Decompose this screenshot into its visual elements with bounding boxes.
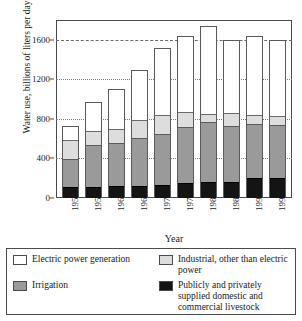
legend-swatch-electric-icon xyxy=(13,255,27,265)
x-axis-tick-1990: 1990 xyxy=(246,200,263,232)
bar-segment-industrial-1955 xyxy=(86,131,101,145)
bar-segment-irrigation-1985 xyxy=(224,126,239,182)
x-axis-tick-label: 1960 xyxy=(117,193,126,211)
x-axis-title: Year xyxy=(56,233,292,244)
bar-segment-irrigation-1955 xyxy=(86,145,101,187)
bar-segment-electric-1980 xyxy=(201,27,216,115)
x-axis-tick-label: 1980 xyxy=(209,193,218,211)
x-axis-tick-label: 1975 xyxy=(186,193,195,211)
bar-1955 xyxy=(85,102,102,198)
legend-label: Irrigation xyxy=(32,280,68,291)
bar-1960 xyxy=(108,89,125,198)
bar-1970 xyxy=(154,48,171,198)
bar-segment-electric-1965 xyxy=(132,71,147,119)
bar-segment-electric-1950 xyxy=(63,127,78,141)
bar-segment-electric-1995 xyxy=(270,41,285,116)
y-axis-tick-1600: 1600 xyxy=(32,35,50,44)
x-axis-tick-1985: 1985 xyxy=(223,200,240,232)
legend-label: Industrial, other than electric power xyxy=(178,254,289,276)
x-axis-tick-1965: 1965 xyxy=(131,200,148,232)
legend-item-industrial-other-than-electric-power: Industrial, other than electric power xyxy=(159,254,289,276)
legend-item-irrigation: Irrigation xyxy=(13,280,159,313)
x-axis-tick-1970: 1970 xyxy=(154,200,171,232)
legend-swatch-domestic-icon xyxy=(159,281,173,291)
bar-segment-irrigation-1950 xyxy=(63,159,78,187)
x-axis-tick-label: 1995 xyxy=(278,193,287,211)
y-axis-tick-mark xyxy=(50,79,54,80)
bar-1985 xyxy=(223,40,240,198)
x-axis-tick-label: 1955 xyxy=(94,193,103,211)
x-axis-tick-labels: 1950195519601965197019751980198519901995 xyxy=(56,200,292,232)
x-axis-tick-1955: 1955 xyxy=(85,200,102,232)
legend-swatch-industrial-icon xyxy=(159,255,173,265)
bar-segment-industrial-1975 xyxy=(178,112,193,128)
y-axis-tick-mark xyxy=(50,118,54,119)
bar-segment-irrigation-1980 xyxy=(201,122,216,182)
bar-segment-electric-1985 xyxy=(224,41,239,113)
legend-swatch-irrigation-icon xyxy=(13,281,27,291)
bar-segment-irrigation-1960 xyxy=(109,143,124,186)
x-axis-tick-label: 1965 xyxy=(140,193,149,211)
x-axis-tick-label: 1970 xyxy=(163,193,172,211)
y-axis-tick-800: 800 xyxy=(37,114,51,123)
x-axis-tick-1980: 1980 xyxy=(200,200,217,232)
bar-segment-electric-1955 xyxy=(86,103,101,131)
bar-segment-industrial-1990 xyxy=(247,115,262,124)
legend-label: Publicly and privately supplied domestic… xyxy=(178,280,289,313)
water-use-stacked-bar-chart: Water use, billions of liters per day 04… xyxy=(0,0,302,321)
bar-segment-industrial-1950 xyxy=(63,140,78,159)
x-axis-tick-1975: 1975 xyxy=(177,200,194,232)
x-axis-tick-1960: 1960 xyxy=(108,200,125,232)
bar-segment-industrial-1995 xyxy=(270,116,285,125)
legend-row: Irrigation Publicly and privately suppli… xyxy=(13,280,289,313)
bar-segment-industrial-1980 xyxy=(201,114,216,122)
plot-area xyxy=(56,20,292,198)
bar-1965 xyxy=(131,70,148,198)
legend-item-electric-power-generation: Electric power generation xyxy=(13,254,159,276)
bar-1990 xyxy=(246,36,263,198)
bar-segment-irrigation-1975 xyxy=(178,127,193,183)
bar-1975 xyxy=(177,36,194,198)
x-axis-tick-1995: 1995 xyxy=(269,200,286,232)
x-axis-tick-label: 1990 xyxy=(255,193,264,211)
bar-segment-industrial-1960 xyxy=(109,129,124,143)
legend-row: Electric power generation Industrial, ot… xyxy=(13,254,289,276)
bar-segment-irrigation-1970 xyxy=(155,134,170,185)
x-axis-tick-label: 1950 xyxy=(71,193,80,211)
bar-group xyxy=(56,20,292,198)
y-axis-tick-mark xyxy=(50,158,54,159)
y-axis-tick-400: 400 xyxy=(37,154,51,163)
bar-segment-irrigation-1965 xyxy=(132,138,147,186)
bar-segment-electric-1990 xyxy=(247,37,262,115)
legend-label: Electric power generation xyxy=(32,254,130,265)
chart-legend: Electric power generation Industrial, ot… xyxy=(6,248,296,315)
y-axis-tick-labels: 040080012001600 xyxy=(20,20,54,198)
legend-item-domestic-and-commercial-livestock: Publicly and privately supplied domestic… xyxy=(159,280,289,313)
x-axis-tick-label: 1985 xyxy=(232,193,241,211)
bar-segment-electric-1960 xyxy=(109,90,124,129)
bar-1980 xyxy=(200,26,217,198)
bar-1995 xyxy=(269,40,286,198)
bar-segment-industrial-1970 xyxy=(155,115,170,134)
bar-segment-electric-1975 xyxy=(178,37,193,112)
bar-1950 xyxy=(62,126,79,198)
y-axis-tick-1200: 1200 xyxy=(32,75,50,84)
bar-segment-industrial-1985 xyxy=(224,113,239,126)
bar-segment-industrial-1965 xyxy=(132,120,147,139)
y-axis-tick-mark xyxy=(50,39,54,40)
y-axis-tick-mark xyxy=(50,198,54,199)
x-axis-tick-1950: 1950 xyxy=(62,200,79,232)
bar-segment-irrigation-1995 xyxy=(270,125,285,178)
bar-segment-electric-1970 xyxy=(155,49,170,115)
bar-segment-irrigation-1990 xyxy=(247,124,262,178)
